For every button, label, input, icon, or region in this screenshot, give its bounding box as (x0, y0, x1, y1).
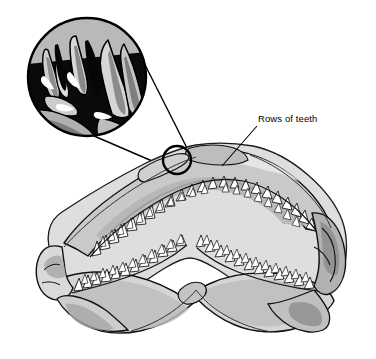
jaw-illustration-svg (0, 0, 376, 359)
shark-jaw-figure: Rows of teeth (0, 0, 376, 359)
callout-label-rows-of-teeth: Rows of teeth (258, 114, 317, 124)
